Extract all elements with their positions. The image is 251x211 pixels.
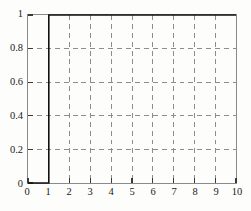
y-tick-label: 0.6 (10, 77, 23, 88)
x-tick-label: 8 (192, 187, 197, 198)
x-tick-label: 5 (129, 187, 134, 198)
y-tick-label: 0.2 (10, 145, 23, 156)
x-tick-label: 0 (24, 187, 29, 198)
data-series-step (28, 15, 236, 183)
x-tick-label: 7 (171, 187, 176, 198)
y-tick-label: 1 (18, 9, 23, 20)
y-tick-label: 0.4 (10, 111, 23, 122)
x-tick-label: 2 (66, 187, 71, 198)
x-tick-label: 3 (87, 187, 92, 198)
y-tick-label: 0 (18, 179, 23, 190)
x-tick-label: 4 (108, 187, 113, 198)
x-tick-label: 1 (45, 187, 50, 198)
x-tick-label: 10 (232, 187, 243, 198)
y-tick-label: 0.8 (10, 43, 23, 54)
x-tick-label: 9 (213, 187, 218, 198)
chart-figure: 012345678910 00.20.40.60.81 (0, 0, 251, 211)
plot-area (27, 14, 237, 184)
x-tick-label: 6 (150, 187, 155, 198)
